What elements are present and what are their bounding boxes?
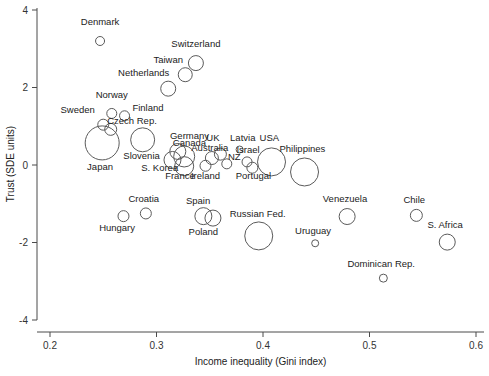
data-point-label: Russian Fed. — [230, 208, 286, 219]
data-point-bubble — [161, 81, 176, 96]
data-point-label: Venezuela — [323, 193, 368, 204]
data-point-label: Netherlands — [118, 67, 169, 78]
data-point-label: Croatia — [128, 193, 159, 204]
data-point-label: Czech Rep. — [107, 115, 157, 126]
data-point-label: Finland — [132, 102, 163, 113]
y-axis-title: Trust (SDE units) — [5, 126, 16, 202]
data-point-label: Portugal — [236, 170, 271, 181]
y-tick-label: 0 — [22, 160, 28, 171]
data-point-label: Uruguay — [295, 225, 331, 236]
data-point-label: Hungary — [99, 222, 135, 233]
data-point-label: Philippines — [279, 143, 325, 154]
x-tick-label: 0.3 — [150, 340, 164, 351]
x-tick-label: 0.6 — [469, 340, 483, 351]
data-point-label: Ireland — [191, 170, 220, 181]
data-point-bubble — [140, 208, 151, 219]
x-tick-label: 0.4 — [256, 340, 270, 351]
plot-area: 420-2-40.20.30.40.50.6 DenmarkSwitzerlan… — [0, 0, 489, 376]
data-point-label: Chile — [403, 194, 425, 205]
x-tick-label: 0.5 — [363, 340, 377, 351]
data-point-bubble — [379, 274, 387, 282]
data-point-bubble — [118, 211, 129, 222]
data-point-label: Australia — [191, 142, 229, 153]
data-point-label: Spain — [186, 195, 210, 206]
data-point-label: Switzerland — [171, 38, 220, 49]
data-point-bubble — [339, 209, 355, 225]
data-point-bubble — [439, 234, 455, 250]
data-point-label: Poland — [189, 226, 219, 237]
data-point-label: Dominican Rep. — [347, 258, 415, 269]
data-point-bubble — [291, 158, 319, 186]
x-axis-title: Income inequality (Gini index) — [195, 356, 327, 367]
data-point-bubble — [312, 240, 319, 247]
data-point-bubble — [85, 126, 119, 160]
data-point-bubble — [96, 37, 105, 46]
scatter-chart: 420-2-40.20.30.40.50.6 DenmarkSwitzerlan… — [0, 0, 489, 376]
data-point-label: S. Africa — [427, 219, 463, 230]
data-point-bubble — [245, 222, 273, 250]
data-point-label: Sweden — [61, 104, 95, 115]
data-point-bubble — [131, 128, 155, 152]
data-point-label: Norway — [96, 89, 128, 100]
data-point-bubble — [178, 68, 192, 82]
data-point-label: Slovenia — [123, 150, 160, 161]
data-point-bubble — [205, 210, 221, 226]
data-point-label: Taiwan — [153, 54, 183, 65]
y-tick-label: 4 — [22, 5, 28, 16]
point-labels: DenmarkSwitzerlandTaiwanNetherlandsNorwa… — [61, 16, 464, 269]
data-point-bubble — [410, 209, 422, 221]
data-point-label: Latvia — [230, 132, 256, 143]
y-tick-label: -2 — [19, 237, 28, 248]
data-point-bubble — [195, 208, 212, 225]
y-tick-label: -4 — [19, 315, 28, 326]
data-point-label: USA — [260, 132, 280, 143]
y-tick-label: 2 — [22, 82, 28, 93]
x-tick-label: 0.2 — [43, 340, 57, 351]
data-point-label: Japan — [87, 161, 113, 172]
data-point-bubble — [188, 56, 203, 71]
data-point-label: UK — [206, 132, 220, 143]
data-point-label: Denmark — [81, 16, 120, 27]
data-point-label: Israel — [236, 144, 259, 155]
